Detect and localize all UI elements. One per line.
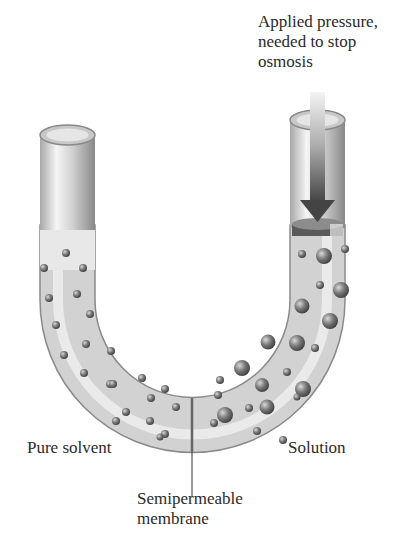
left-arm-empty bbox=[40, 135, 95, 230]
applied-pressure-label: Applied pressure, needed to stop osmosis bbox=[258, 12, 378, 72]
label-line: Semipermeable bbox=[137, 489, 243, 509]
label-line: osmosis bbox=[258, 52, 378, 72]
label-line: needed to stop bbox=[258, 32, 378, 52]
solution-label: Solution bbox=[288, 438, 346, 458]
pure-solvent-label: Pure solvent bbox=[27, 438, 112, 458]
osmosis-diagram: Applied pressure, needed to stop osmosis… bbox=[0, 0, 403, 548]
label-line: membrane bbox=[137, 509, 243, 529]
label-line: Applied pressure, bbox=[258, 12, 378, 32]
membrane-label: Semipermeable membrane bbox=[137, 489, 243, 529]
u-tube-illustration bbox=[0, 0, 403, 548]
